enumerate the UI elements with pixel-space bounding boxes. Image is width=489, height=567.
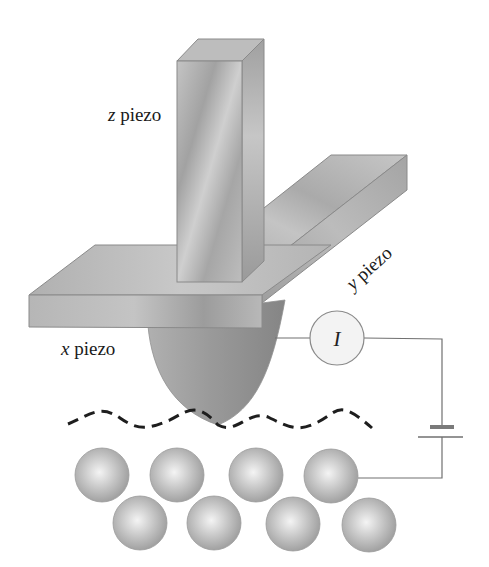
z-piezo-block [177,39,264,282]
wire-meter-battery [364,338,442,426]
atom [266,497,320,551]
atom [75,448,129,502]
circuit: I [275,311,463,478]
battery-short-plate [430,425,454,429]
atom [229,448,283,502]
atom [304,449,358,503]
atom [342,498,396,552]
sample-atoms [75,448,396,552]
y-piezo-label: y piezo [340,242,396,295]
wire-battery-sample [358,437,442,478]
stm-diagram: z piezo y piezo x piezo I [0,0,489,567]
atom [187,496,241,550]
z-piezo-label: z piezo [107,104,161,125]
current-meter: I [310,311,364,365]
atom [150,448,204,502]
atom [113,496,167,550]
current-meter-label: I [333,327,342,351]
diagram-canvas: z piezo y piezo x piezo I [0,0,489,567]
x-piezo-label: x piezo [60,338,115,359]
